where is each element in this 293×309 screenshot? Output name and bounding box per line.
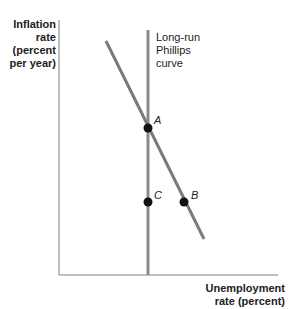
point-c-label: C xyxy=(154,189,162,201)
lrpc-label-line: curve xyxy=(156,57,200,70)
y-axis-label: Inflation rate (percent per year) xyxy=(2,18,56,70)
lrpc-label-line: Phillips xyxy=(156,44,200,57)
x-label-line: rate (percent) xyxy=(206,295,285,308)
y-label-line: Inflation xyxy=(2,18,56,31)
short-run-phillips-curve xyxy=(106,41,204,239)
point-a xyxy=(144,124,153,133)
point-b-label: B xyxy=(191,189,198,201)
lrpc-label-line: Long-run xyxy=(156,31,200,44)
y-label-line: per year) xyxy=(2,57,56,70)
long-run-curve-label: Long-run Phillips curve xyxy=(156,31,200,70)
x-axis-label: Unemployment rate (percent) xyxy=(206,282,285,308)
point-c xyxy=(144,198,153,207)
y-label-line: (percent xyxy=(2,44,56,57)
y-label-line: rate xyxy=(2,31,56,44)
x-label-line: Unemployment xyxy=(206,282,285,295)
point-b xyxy=(180,198,189,207)
point-a-label: A xyxy=(154,114,161,126)
